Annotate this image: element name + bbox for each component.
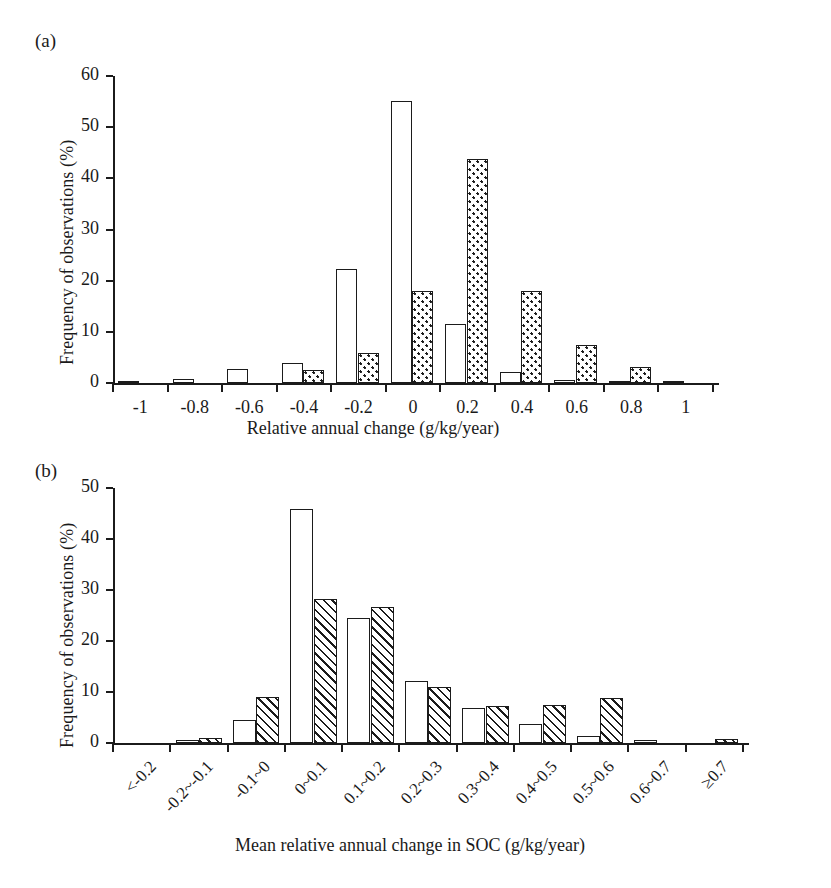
- bar: [467, 159, 488, 383]
- x-axis-tick: [603, 384, 605, 392]
- x-axis-tick: [227, 744, 229, 752]
- y-axis-tick: [106, 229, 113, 231]
- y-axis-tick-label: 0: [47, 371, 99, 392]
- bar: [282, 363, 303, 383]
- y-axis-tick-label: 10: [47, 680, 99, 701]
- x-axis-tick: [167, 384, 169, 392]
- x-axis-tick: [513, 744, 515, 752]
- y-axis-tick-label: 30: [47, 578, 99, 599]
- x-axis-tick: [221, 384, 223, 392]
- bar: [347, 618, 370, 743]
- panel-a-plot-area: 0102030405060-1-0.8-0.6-0.4-0.200.20.40.…: [113, 76, 713, 383]
- y-axis-tick-label: 30: [47, 218, 99, 239]
- bar: [462, 708, 485, 743]
- bar: [303, 370, 324, 383]
- y-axis-tick: [106, 280, 113, 282]
- x-axis-tick-label: 1: [646, 397, 726, 418]
- x-axis-tick: [284, 744, 286, 752]
- x-axis-tick: [494, 384, 496, 392]
- bar: [358, 353, 379, 383]
- x-axis-line: [113, 743, 749, 745]
- y-axis-tick: [106, 538, 113, 540]
- x-axis-tick: [742, 744, 744, 752]
- bar: [519, 724, 542, 743]
- bar: [600, 698, 623, 743]
- bar: [290, 509, 313, 743]
- bar: [227, 369, 248, 383]
- bar: [118, 381, 139, 383]
- y-axis-tick-label: 0: [47, 731, 99, 752]
- x-axis-tick: [341, 744, 343, 752]
- x-axis-tick: [685, 744, 687, 752]
- bar: [521, 291, 542, 383]
- bar: [314, 599, 337, 743]
- bar: [256, 697, 279, 743]
- y-axis-tick: [106, 589, 113, 591]
- y-axis-tick-label: 50: [47, 115, 99, 136]
- x-axis-tick: [112, 384, 114, 392]
- bar: [576, 345, 597, 383]
- bar: [428, 687, 451, 743]
- bar: [371, 607, 394, 743]
- x-axis-tick: [627, 744, 629, 752]
- y-axis-tick-label: 40: [47, 527, 99, 548]
- y-axis-tick: [106, 177, 113, 179]
- bar: [630, 367, 651, 383]
- panel-b-x-axis-label: Mean relative annual change in SOC (g/kg…: [100, 835, 720, 856]
- bar: [405, 681, 428, 743]
- y-axis-tick-label: 20: [47, 269, 99, 290]
- bar: [715, 739, 738, 743]
- bar: [554, 380, 575, 383]
- bar: [500, 372, 521, 383]
- figure: (a) Frequency of observations (%) 010203…: [0, 0, 831, 888]
- bar: [336, 269, 357, 383]
- y-axis-tick-label: 10: [47, 320, 99, 341]
- bar: [634, 740, 657, 743]
- panel-a-x-axis-label: Relative annual change (g/kg/year): [113, 418, 633, 439]
- y-axis-tick: [106, 691, 113, 693]
- x-axis-tick: [548, 384, 550, 392]
- bar: [663, 381, 684, 383]
- y-axis-line: [113, 76, 115, 384]
- bar: [577, 736, 600, 743]
- bar: [233, 720, 256, 743]
- bar: [609, 381, 630, 383]
- x-axis-tick: [169, 744, 171, 752]
- x-axis-tick: [330, 384, 332, 392]
- x-axis-tick: [570, 744, 572, 752]
- x-axis-tick: [657, 384, 659, 392]
- x-axis-line: [113, 383, 719, 385]
- y-axis-tick: [106, 126, 113, 128]
- x-axis-tick: [398, 744, 400, 752]
- bar: [543, 705, 566, 743]
- panel-a-letter: (a): [35, 30, 56, 52]
- x-axis-tick: [456, 744, 458, 752]
- x-axis-tick: [439, 384, 441, 392]
- y-axis-tick: [106, 487, 113, 489]
- y-axis-tick: [106, 331, 113, 333]
- panel-a: (a) Frequency of observations (%) 010203…: [0, 0, 831, 450]
- y-axis-tick: [106, 640, 113, 642]
- bar: [173, 379, 194, 383]
- bar: [486, 706, 509, 743]
- bar: [445, 324, 466, 383]
- y-axis-line: [113, 488, 115, 744]
- x-axis-tick: [112, 744, 114, 752]
- panel-b: (b) Frequency of observations (%) 010203…: [0, 450, 831, 888]
- y-axis-tick-label: 40: [47, 166, 99, 187]
- x-axis-tick: [276, 384, 278, 392]
- bar: [391, 101, 412, 383]
- y-axis-tick-label: 20: [47, 629, 99, 650]
- panel-b-plot-area: 01020304050<-0.2-0.2~-0.1-0.1~00~0.10.1~…: [113, 488, 743, 743]
- y-axis-tick: [106, 75, 113, 77]
- y-axis-tick-label: 50: [47, 476, 99, 497]
- x-axis-tick: [712, 384, 714, 392]
- x-axis-tick: [385, 384, 387, 392]
- bar: [412, 291, 433, 383]
- bar: [199, 738, 222, 743]
- y-axis-tick-label: 60: [47, 64, 99, 85]
- bar: [176, 740, 199, 743]
